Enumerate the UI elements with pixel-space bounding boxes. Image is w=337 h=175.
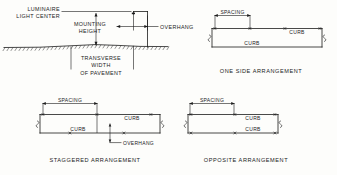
overhang-label: OVERHANG [160, 24, 194, 30]
opposite-road [184, 115, 282, 134]
one-side-curb-top-label: CURB [289, 29, 305, 35]
transverse-width-label-line3: OF PAVEMENT [80, 70, 122, 76]
staggered-arrangement-panel: SPACING [36, 97, 164, 163]
mast-arm [134, 12, 148, 15]
luminaire-label-line1: LUMINAIRE [27, 6, 60, 12]
mounting-height-label-line2: HEIGHT [79, 28, 102, 34]
overhang-dimension [117, 15, 158, 31]
opposite-spacing-label: SPACING [200, 97, 224, 103]
one-side-spacing-dimension [214, 14, 250, 28]
lighting-geometry-figure: LUMINAIRE LIGHT CENTER MOUNTING HEIGHT O… [0, 0, 337, 175]
staggered-caption: STAGGERED ARRANGEMENT [49, 157, 140, 163]
opposite-curb-top-label: CURB [245, 115, 261, 121]
one-side-spacing-label: SPACING [220, 9, 244, 15]
one-side-road [208, 29, 326, 48]
transverse-width-label-line2: WIDTH [91, 62, 110, 68]
staggered-curb-bottom-label: CURB [70, 126, 86, 132]
mounting-height-label-line1: MOUNTING [74, 21, 106, 27]
one-side-arrangement-panel: SPACING CURB CURB ONE SIDE ARRANGEMEN [208, 9, 326, 74]
one-side-curb-bottom-label: CURB [244, 40, 260, 46]
opposite-caption: OPPOSITE ARRANGEMENT [204, 157, 288, 163]
one-side-caption: ONE SIDE ARRANGEMENT [220, 68, 303, 74]
opposite-luminaire-marks [190, 113, 277, 134]
ground-hatching [3, 45, 169, 51]
opposite-arrangement-panel: SPACING CURB CURB OPPOSITE A [184, 97, 288, 163]
staggered-overhang-label: OVERHANG [123, 140, 154, 146]
opposite-spacing-dimension [189, 102, 234, 114]
staggered-road [36, 115, 164, 134]
staggered-spacing-label: SPACING [58, 97, 82, 103]
transverse-width-label-line1: TRANSVERSE [81, 55, 121, 61]
figure-canvas: LUMINAIRE LIGHT CENTER MOUNTING HEIGHT O… [0, 0, 337, 175]
cross-section-panel: LUMINAIRE LIGHT CENTER MOUNTING HEIGHT O… [3, 6, 194, 76]
luminaire-label-line2: LIGHT CENTER [16, 13, 60, 19]
luminaire-head [132, 13, 135, 15]
opposite-curb-bottom-label: CURB [245, 126, 261, 132]
staggered-curb-top-label: CURB [124, 115, 140, 121]
ground-line [3, 45, 169, 51]
